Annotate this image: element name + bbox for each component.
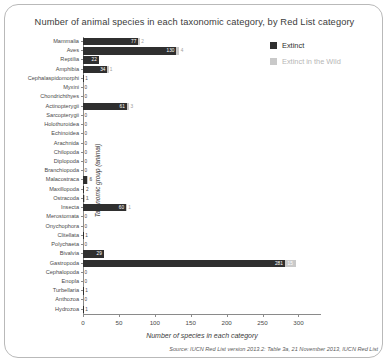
bar-value-extinct: 0 [85, 158, 88, 165]
bar-row: Amphibia341 [83, 66, 320, 73]
bar-row: Aves1304 [83, 47, 320, 54]
y-axis-label: Anthozoa [55, 296, 79, 303]
chart-card: Number of animal species in each taxonom… [4, 4, 383, 358]
bar-row: Arachnida0 [83, 140, 320, 147]
bar-value-extinct: 0 [85, 296, 88, 303]
bar-value-extinct: 130 [167, 47, 175, 54]
bar-value-extinct-in-the-wild: 4 [181, 47, 184, 54]
y-axis-tick [81, 216, 83, 217]
bar-row: Anthozoa0 [83, 296, 320, 303]
y-axis-label: Cephalaspidomorphi [28, 75, 79, 82]
y-axis-tick [81, 281, 83, 282]
bar-value-extinct-in-the-wild: 1 [90, 176, 93, 183]
bar-segment-extinct-in-the-wild [84, 195, 85, 202]
bar-row: Ostracoda11 [83, 195, 320, 202]
y-axis-label: Arachnida [54, 140, 79, 147]
bar-row: Onychophora0 [83, 223, 320, 230]
y-axis-label: Gastropoda [50, 260, 79, 267]
x-axis-label: 0 [81, 319, 84, 326]
y-axis-label: Cephalopoda [46, 269, 79, 276]
bar-segment-extinct-in-the-wild [138, 38, 139, 45]
y-axis-label: Merostomata [46, 213, 79, 220]
bar-row: Mammalia772 [83, 38, 320, 45]
bar-row: Merostomata0 [83, 213, 320, 220]
y-axis-tick [81, 115, 83, 116]
x-axis-label: 250 [257, 319, 267, 326]
y-axis-label: Reptilia [60, 56, 79, 63]
bar-row: Turbellaria1 [83, 287, 320, 294]
y-axis-label: Myxini [63, 84, 79, 91]
bar-segment-extinct-in-the-wild [176, 47, 179, 54]
y-axis-label: Ostracoda [53, 195, 79, 202]
y-axis-tick [81, 152, 83, 153]
y-axis-tick [81, 161, 83, 162]
y-axis-tick [81, 299, 83, 300]
bar-segment-extinct-in-the-wild [87, 176, 88, 183]
bar-value-extinct: 0 [85, 121, 88, 128]
bar-row: Diplopoda0 [83, 158, 320, 165]
y-axis-tick [81, 272, 83, 273]
bar-value-extinct: 0 [85, 213, 88, 220]
bar-row: Gastropoda28115 [83, 260, 320, 267]
bar-segment-extinct [83, 232, 84, 239]
bar-value-extinct-in-the-wild: 2 [141, 38, 144, 45]
bar-value-extinct: 34 [100, 66, 105, 73]
y-axis-label: Malacostraca [46, 176, 79, 183]
bar-value-extinct: 281 [275, 260, 283, 267]
bar-row: Branchiopoda0 [83, 167, 320, 174]
y-axis-tick [81, 226, 83, 227]
source-note: Source: IUCN Red List version 2013.2: Ta… [5, 346, 378, 352]
x-axis-tick [263, 314, 264, 317]
bar-value-extinct: 0 [85, 278, 88, 285]
y-axis-label: Polychaeta [51, 241, 79, 248]
plot-area: Taxonomic group (animal) Mammalia772Aves… [83, 37, 320, 314]
bar-value-extinct: 0 [85, 93, 88, 100]
bar-value-extinct: 0 [85, 167, 88, 174]
bar-segment-extinct-in-the-wild [126, 204, 127, 211]
bar-row: Reptilia22 [83, 56, 320, 63]
bar-value-extinct: 0 [85, 140, 88, 147]
x-axis-line: 050100150200250300 [83, 314, 321, 315]
y-axis-label: Actinopterygii [45, 103, 79, 110]
bar-row: Myxini0 [83, 84, 320, 91]
bar-value-extinct: 0 [85, 241, 88, 248]
bar-value-extinct: 0 [85, 223, 88, 230]
bar-value-extinct-in-the-wild: 1 [128, 204, 131, 211]
x-axis-label: 50 [115, 319, 122, 326]
y-axis-label: Amphibia [56, 66, 79, 73]
bar-value-extinct-in-the-wild: 1 [86, 195, 89, 202]
bar-row: Enopla0 [83, 278, 320, 285]
bar-segment-extinct [83, 287, 84, 294]
bar-row: Actinopterygii613 [83, 103, 320, 110]
y-axis-label: Insecta [61, 204, 79, 211]
x-axis-tick [191, 314, 192, 317]
bar-row: Insecta601 [83, 204, 320, 211]
y-axis-label: Chilopoda [54, 149, 79, 156]
bar-row: Bivalvia29 [83, 250, 320, 257]
bar-row: Cephalopoda0 [83, 269, 320, 276]
bar-row: Malacostraca61 [83, 176, 320, 183]
y-axis-label: Maxillopoda [49, 186, 79, 193]
y-axis-tick [81, 170, 83, 171]
chart-title: Number of animal species in each taxonom… [5, 17, 383, 27]
bar-segment-extinct-in-the-wild [107, 66, 108, 73]
y-axis-tick [81, 96, 83, 97]
y-axis-label: Holothuroidea [44, 121, 79, 128]
x-axis-label: 150 [186, 319, 196, 326]
bar-value-extinct: 0 [85, 112, 88, 119]
y-axis-label: Chondrichthyes [40, 93, 79, 100]
y-axis-label: Bivalvia [60, 250, 79, 257]
bar-segment-extinct [83, 260, 285, 267]
bar-row: Clitellata1 [83, 232, 320, 239]
bar-segment-extinct-in-the-wild [127, 103, 129, 110]
bar-segment-extinct [83, 38, 138, 45]
bar-value-extinct: 22 [92, 56, 97, 63]
bar-row: Echinoidea0 [83, 130, 320, 137]
x-axis-title: Number of species in each category [83, 332, 321, 339]
bar-value-extinct: 77 [131, 38, 136, 45]
x-axis-tick [155, 314, 156, 317]
y-axis-label: Sarcopterygii [46, 112, 79, 119]
y-axis-label: Aves [67, 47, 79, 54]
x-axis-tick [83, 314, 84, 317]
bar-segment-extinct [83, 47, 176, 54]
